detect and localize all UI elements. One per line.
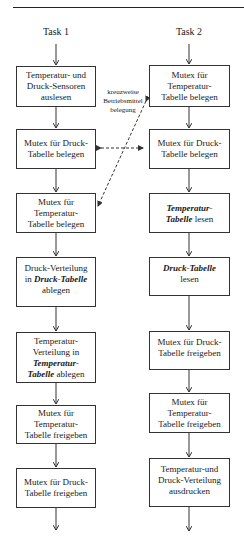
flow-arrows — [0, 0, 244, 544]
diagonal-dashed-arrow-icon — [98, 101, 146, 206]
